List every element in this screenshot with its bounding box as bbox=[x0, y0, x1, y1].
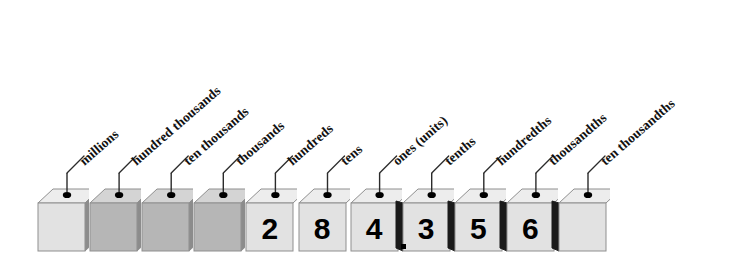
decimal-point-marker bbox=[401, 244, 406, 249]
place-cube bbox=[542, 187, 610, 255]
place-value-figure: 284356 millionshundred thousandsten thou… bbox=[0, 0, 739, 266]
